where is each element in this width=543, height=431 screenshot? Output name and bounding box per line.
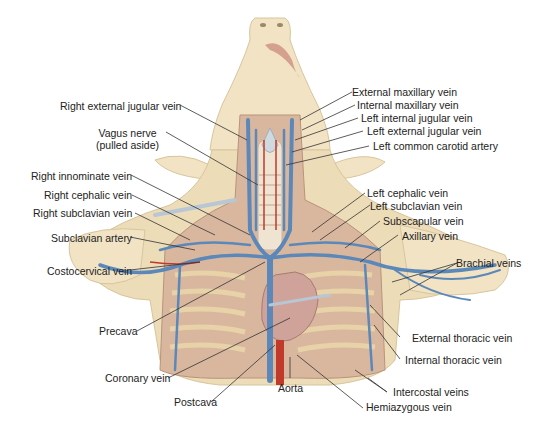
label-hemiazygous-vein: Hemiazygous vein	[366, 401, 452, 413]
label-subscapular-vein: Subscapular vein	[383, 215, 464, 227]
label-left-subclavian-vein: Left subclavian vein	[370, 200, 462, 212]
label-vagus-nerve-text: Vagus nerve	[96, 127, 159, 139]
label-left-common-carotid-artery: Left common carotid artery	[373, 140, 498, 152]
label-vagus-nerve: Vagus nerve (pulled aside)	[96, 127, 159, 151]
label-brachial-veins: Brachial veins	[456, 257, 521, 269]
label-vagus-nerve-subtext: (pulled aside)	[96, 139, 159, 151]
label-aorta: Aorta	[278, 382, 303, 394]
label-right-innominate-vein: Right innominate vein	[31, 170, 132, 182]
label-left-external-jugular-vein: Left external jugular vein	[367, 125, 481, 137]
label-internal-thoracic-vein: Internal thoracic vein	[405, 354, 502, 366]
label-coronary-vein: Coronary vein	[105, 372, 170, 384]
label-right-subclavian-vein: Right subclavian vein	[33, 207, 132, 219]
label-right-cephalic-vein: Right cephalic vein	[44, 189, 132, 201]
label-postcava: Postcava	[174, 396, 217, 408]
label-precava: Precava	[99, 325, 138, 337]
label-subclavian-artery: Subclavian artery	[51, 232, 132, 244]
label-right-external-jugular-vein: Right external jugular vein	[60, 100, 181, 112]
label-costocervical-vein: Costocervical vein	[47, 265, 132, 277]
label-intercostal-veins: Intercostal veins	[393, 386, 469, 398]
label-left-cephalic-vein: Left cephalic vein	[367, 187, 448, 199]
label-internal-maxillary-vein: Internal maxillary vein	[357, 99, 459, 111]
label-left-internal-jugular-vein: Left internal jugular vein	[361, 112, 473, 124]
label-axillary-vein: Axillary vein	[402, 230, 458, 242]
anatomy-diagram: Right external jugular vein Vagus nerve …	[0, 0, 543, 431]
label-external-thoracic-vein: External thoracic vein	[412, 332, 512, 344]
label-external-maxillary-vein: External maxillary vein	[352, 86, 457, 98]
